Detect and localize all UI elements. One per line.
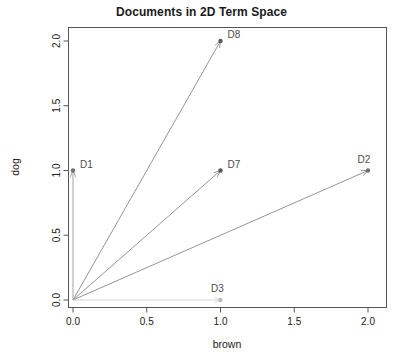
vector-arrow-d2	[73, 171, 368, 301]
point-label-d7: D7	[228, 159, 241, 170]
x-axis-label: brown	[213, 338, 242, 350]
y-axis-label: dog	[9, 158, 21, 176]
y-tick-label: 0.0	[51, 293, 62, 307]
point-label-d1: D1	[80, 159, 93, 170]
y-tick-label: 2.0	[51, 34, 62, 48]
y-axis-ticks: 0.00.51.01.52.0	[51, 34, 69, 307]
data-point-d1	[71, 168, 75, 172]
y-tick-label: 0.5	[51, 228, 62, 242]
scatter-plot: D1D8D7D2D3 0.00.51.01.52.0 0.00.51.01.52…	[0, 0, 403, 364]
data-point-d7	[218, 168, 222, 172]
data-point-d2	[366, 168, 370, 172]
x-tick-label: 1.5	[287, 316, 301, 327]
x-tick-label: 2.0	[361, 316, 375, 327]
x-tick-label: 1.0	[214, 316, 228, 327]
point-label-d3: D3	[211, 283, 224, 294]
vector-arrow-d8	[73, 41, 221, 300]
data-points: D1D8D7D2D3	[71, 29, 371, 302]
data-point-d3	[218, 298, 222, 302]
vector-arrow-d7	[73, 171, 221, 301]
chart-screenshot: Documents in 2D Term Space D1D8D7D2D3 0.…	[0, 0, 403, 364]
x-axis-ticks: 0.00.51.01.52.0	[66, 308, 375, 327]
x-tick-label: 0.0	[66, 316, 80, 327]
point-label-d8: D8	[228, 29, 241, 40]
y-tick-label: 1.0	[51, 163, 62, 177]
point-label-d2: D2	[358, 154, 371, 165]
data-point-d8	[218, 39, 222, 43]
y-tick-label: 1.5	[51, 98, 62, 112]
x-tick-label: 0.5	[140, 316, 154, 327]
